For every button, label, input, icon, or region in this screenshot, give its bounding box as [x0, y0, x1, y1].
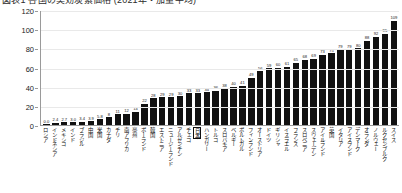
x-category-label: フランス — [293, 127, 299, 146]
bar[interactable] — [115, 114, 121, 125]
x-category-slot: イスラエル — [282, 127, 291, 193]
chart-title-clipped: 図表1 各国の実効炭素価格 (2021年・加重平均) — [0, 0, 402, 7]
y-tick-mark — [35, 107, 38, 108]
x-category-slot: デンマーク — [353, 127, 362, 193]
chart-title: 図表1 各国の実効炭素価格 (2021年・加重平均) — [2, 0, 196, 6]
bar-value-label: 61 — [285, 62, 290, 66]
bar-value-label: 88 — [365, 36, 370, 40]
x-category-label: ポルトガル — [239, 127, 245, 151]
x-category-slot: ベルギー — [228, 127, 237, 193]
bar-value-label: 73 — [320, 50, 325, 54]
bar-value-label: 69 — [311, 54, 316, 58]
x-category-label: 中国 — [87, 127, 93, 137]
bar[interactable] — [248, 78, 254, 125]
bar-value-label: 41 — [240, 81, 245, 85]
bar-value-label: 3.0 — [70, 118, 76, 122]
x-category-label: 英国 — [328, 127, 334, 137]
carbon-price-chart: 図表1 各国の実効炭素価格 (2021年・加重平均) 実効炭素価格 (EUR/t… — [0, 0, 402, 193]
bar[interactable] — [70, 122, 76, 125]
y-tick-label: 100 — [21, 26, 34, 35]
gridline — [41, 11, 399, 12]
x-category-label: ブラジル — [78, 127, 84, 146]
gridline — [41, 69, 399, 70]
bar[interactable] — [275, 68, 281, 126]
y-tick-label: 20 — [26, 102, 34, 111]
x-category-label: ハンガリー — [203, 127, 209, 151]
x-category-slot: 英国 — [327, 127, 336, 193]
x-category-label: 南アフリカ — [123, 127, 129, 151]
x-category-slot: インドネシア — [50, 127, 59, 193]
gridline — [41, 107, 399, 108]
bar[interactable] — [88, 121, 94, 125]
x-category-label: 豪州 — [132, 127, 138, 137]
bar[interactable] — [186, 93, 192, 125]
y-tick-mark — [35, 30, 38, 31]
bar[interactable] — [257, 71, 263, 125]
x-category-slot: 韓国 — [148, 127, 157, 193]
bar[interactable] — [195, 93, 201, 125]
bar[interactable] — [79, 122, 85, 125]
x-category-label: スウェーデン — [310, 127, 316, 156]
bar[interactable] — [284, 67, 290, 125]
bar[interactable] — [43, 124, 49, 125]
x-category-label: アイスランド — [346, 127, 352, 156]
bar[interactable] — [204, 92, 210, 125]
gridline — [41, 88, 399, 89]
bar-value-label: 68 — [302, 55, 307, 59]
bar-value-label: 49 — [249, 73, 254, 77]
bar[interactable] — [97, 119, 103, 125]
plot-area: 0.02.42.73.03.43.95.88111214222829293033… — [40, 11, 399, 126]
bar-value-label: 80 — [356, 44, 361, 48]
x-category-label: ギリシャ — [275, 127, 281, 146]
bar[interactable] — [123, 114, 129, 126]
bar[interactable] — [168, 97, 174, 125]
y-tick-label: 120 — [21, 7, 34, 16]
y-tick-mark — [35, 11, 38, 12]
x-category-label: チェコ — [185, 127, 191, 141]
gridline — [41, 30, 399, 31]
x-category-label: イタリア — [337, 127, 343, 146]
bar[interactable] — [52, 123, 58, 125]
x-category-label: ポーランド — [141, 127, 147, 151]
y-tick-mark — [35, 88, 38, 89]
bar[interactable] — [230, 87, 236, 125]
x-axis-labels: ロシアインドネシアメキシコインドブラジル中国米国カナダチリ南アフリカ豪州ポーラン… — [40, 127, 399, 193]
bar[interactable] — [328, 53, 334, 125]
x-category-slot: フランス — [291, 127, 300, 193]
y-tick-label: 80 — [26, 45, 34, 54]
bar[interactable] — [302, 60, 308, 125]
bar[interactable] — [239, 86, 245, 125]
y-axis-labels: 020406080100120 — [0, 11, 38, 126]
bar[interactable] — [106, 117, 112, 125]
y-tick-label: 60 — [26, 64, 34, 73]
x-category-label: スイス — [391, 127, 397, 141]
x-category-label: ドイツ — [266, 127, 272, 141]
bar-value-label: 33 — [187, 89, 192, 93]
y-tick-mark — [35, 49, 38, 50]
bar[interactable] — [61, 122, 67, 125]
x-category-slot: メキシコ — [59, 127, 68, 193]
bar[interactable] — [150, 98, 156, 125]
y-tick-label: 0 — [30, 122, 34, 131]
bar[interactable] — [293, 63, 299, 125]
x-category-slot: スウェーデン — [309, 127, 318, 193]
x-category-label: スロベニア — [301, 127, 307, 151]
bar[interactable] — [319, 55, 325, 125]
x-category-label: オランダ — [364, 127, 370, 146]
x-category-label: ベルギー — [230, 127, 236, 146]
x-category-slot: ポーランド — [139, 127, 148, 193]
bar[interactable] — [266, 68, 272, 125]
bar[interactable] — [364, 41, 370, 125]
x-category-slot: スロバキア — [219, 127, 228, 193]
x-category-slot: 日本 — [193, 127, 202, 193]
x-category-slot: カナダ — [103, 127, 112, 193]
x-category-label: 日本 — [193, 127, 201, 139]
bar[interactable] — [391, 21, 397, 125]
bar[interactable] — [132, 112, 138, 125]
bar[interactable] — [177, 96, 183, 125]
x-category-label: アイルランド — [319, 127, 325, 156]
x-category-slot: オーストリア — [255, 127, 264, 193]
bar[interactable] — [159, 97, 165, 125]
bar[interactable] — [382, 34, 388, 125]
x-category-label: スロバキア — [221, 127, 227, 151]
